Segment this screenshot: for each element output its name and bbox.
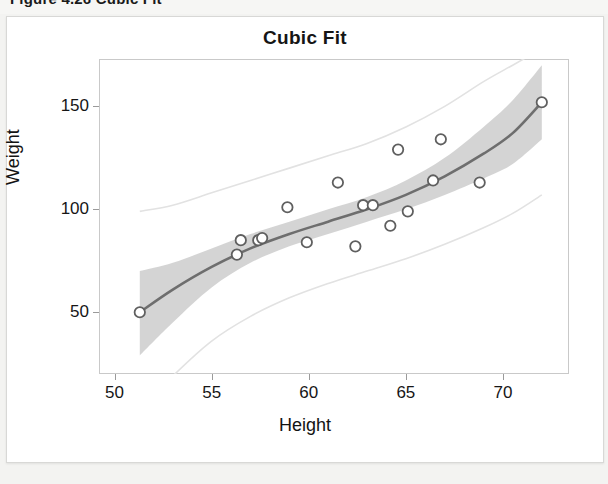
- x-tick-label: 65: [396, 383, 415, 403]
- scanned-page: Figure 4.26 Cubic Fit Cubic Fit 50556065…: [0, 0, 608, 484]
- data-point: [393, 144, 403, 154]
- data-point: [236, 235, 246, 245]
- data-point: [436, 134, 446, 144]
- y-tick-mark: [93, 312, 99, 313]
- data-point: [537, 97, 547, 107]
- y-tick-mark: [93, 106, 99, 107]
- figure-caption: Figure 4.26 Cubic Fit: [10, 0, 162, 7]
- plot-area: [99, 59, 569, 374]
- y-tick-label: 150: [41, 96, 89, 116]
- data-point: [474, 177, 484, 187]
- data-point: [333, 177, 343, 187]
- x-tick-mark: [503, 374, 504, 380]
- confidence-band: [140, 65, 542, 355]
- data-point: [135, 307, 145, 317]
- figure-caption-strip: Figure 4.26 Cubic Fit: [0, 0, 608, 14]
- x-tick-label: 55: [202, 383, 221, 403]
- data-point: [282, 202, 292, 212]
- x-tick-label: 70: [493, 383, 512, 403]
- x-tick-mark: [115, 374, 116, 380]
- data-point: [350, 241, 360, 251]
- y-axis-title: Weight: [3, 129, 24, 185]
- data-point: [232, 249, 242, 259]
- x-tick-label: 60: [299, 383, 318, 403]
- data-point: [428, 175, 438, 185]
- chart-title: Cubic Fit: [7, 27, 603, 49]
- data-point: [302, 237, 312, 247]
- data-point: [368, 200, 378, 210]
- y-tick-label: 50: [41, 302, 89, 322]
- x-axis-title: Height: [7, 415, 603, 436]
- x-tick-label: 50: [105, 383, 124, 403]
- figure-card: Cubic Fit 505560657050100150 Height Weig…: [6, 16, 604, 463]
- y-tick-label: 100: [41, 199, 89, 219]
- data-point: [385, 221, 395, 231]
- x-tick-mark: [309, 374, 310, 380]
- x-tick-mark: [406, 374, 407, 380]
- data-point: [257, 233, 267, 243]
- confidence-band-layer: [140, 65, 542, 355]
- y-tick-mark: [93, 209, 99, 210]
- data-point: [403, 206, 413, 216]
- scatter-plot-svg: [99, 59, 569, 374]
- x-tick-mark: [212, 374, 213, 380]
